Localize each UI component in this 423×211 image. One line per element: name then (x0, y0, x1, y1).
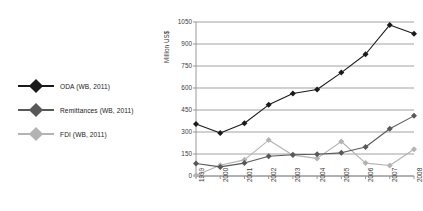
data-point-marker (411, 146, 417, 152)
data-point-marker (338, 150, 344, 156)
y-tick-label: 0 (166, 173, 192, 179)
data-point-marker (241, 160, 247, 166)
data-point-marker (290, 152, 296, 158)
x-tick-label: 2003 (295, 168, 301, 182)
x-tick-label: 2005 (344, 168, 350, 182)
x-tick-label: 2004 (320, 168, 326, 182)
y-tick-label: 900 (166, 41, 192, 47)
x-tick-label: 2000 (223, 168, 229, 182)
y-tick-label: 450 (166, 107, 192, 113)
x-tick-label: 2006 (368, 168, 374, 182)
y-tick-label: 600 (166, 85, 192, 91)
series-line-remittances (196, 116, 414, 167)
x-tick-label: 1999 (199, 168, 205, 182)
y-tick-label: 750 (166, 63, 192, 69)
x-tick-label: 2001 (247, 168, 253, 182)
data-point-marker (217, 130, 223, 136)
series-line-oda (196, 25, 414, 133)
data-point-marker (193, 121, 199, 127)
y-tick-label: 1050 (166, 19, 192, 25)
y-tick-label: 300 (166, 129, 192, 135)
data-point-marker (411, 113, 417, 119)
data-point-marker (290, 91, 296, 97)
x-tick-label: 2007 (392, 168, 398, 182)
data-point-marker (411, 31, 417, 37)
x-tick-label: 2002 (271, 168, 277, 182)
x-tick-label: 2008 (417, 168, 423, 182)
y-tick-label: 150 (166, 151, 192, 157)
data-point-marker (193, 161, 199, 167)
